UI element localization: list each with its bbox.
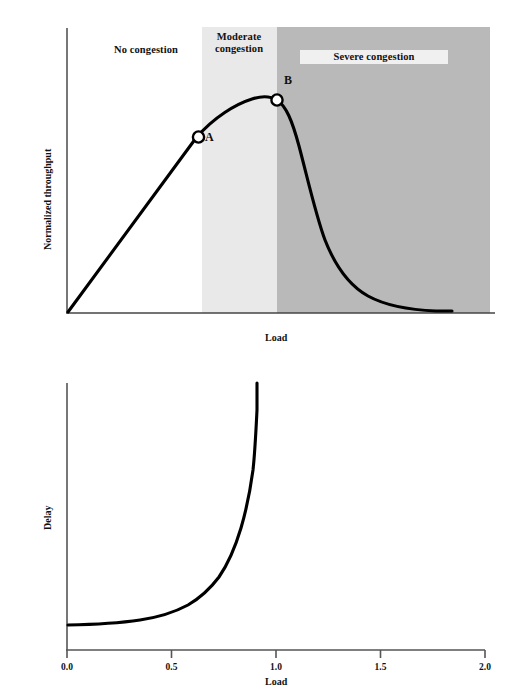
region-label-severe-congestion: Severe congestion xyxy=(300,50,448,64)
region-severe-congestion xyxy=(277,27,490,313)
top-chart-y-axis-title: Normalized throughput xyxy=(42,149,53,250)
point-b-label: B xyxy=(284,74,292,87)
region-moderate-congestion xyxy=(202,27,277,313)
delay-curve xyxy=(68,383,257,625)
region-label-moderate-congestion: Moderate congestion xyxy=(202,31,276,55)
bottom-chart-x-axis-title: Load xyxy=(265,676,287,687)
bottom-chart-tick-label-0: 0.0 xyxy=(52,662,82,672)
charts-canvas xyxy=(0,0,520,696)
bottom-chart-tick-label-2: 1.0 xyxy=(261,662,291,672)
bottom-chart-tick-label-3: 1.5 xyxy=(366,662,396,672)
point-a-marker xyxy=(193,131,204,142)
region-label-no-congestion: No congestion xyxy=(92,44,200,56)
bottom-chart-group xyxy=(66,383,485,658)
bottom-chart-y-axis-title: Delay xyxy=(42,506,53,530)
top-chart-group xyxy=(66,27,495,313)
region-label-moderate-line2: congestion xyxy=(202,43,276,55)
point-a-label: A xyxy=(205,131,214,144)
region-label-moderate-line1: Moderate xyxy=(202,31,276,43)
point-b-marker xyxy=(271,94,282,105)
top-chart-x-axis-title: Load xyxy=(265,332,287,343)
bottom-chart-tick-label-4: 2.0 xyxy=(470,662,500,672)
bottom-chart-tick-label-1: 0.5 xyxy=(157,662,187,672)
congestion-figure: No congestion Moderate congestion Severe… xyxy=(0,0,520,696)
